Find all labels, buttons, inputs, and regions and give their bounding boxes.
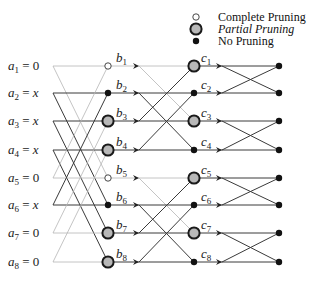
input-label-a6: a6 = x [8, 197, 39, 214]
b7-partial-node [102, 227, 113, 238]
stage-label-b2: b2 [116, 77, 127, 94]
stage-label-c7: c7 [201, 217, 212, 234]
c2-full-node [191, 90, 197, 96]
pruned-fft-butterfly-diagram: Complete PruningPartial PruningNo Prunin… [0, 0, 315, 282]
stage-label-b6: b6 [116, 189, 128, 206]
out5-full-node [276, 175, 282, 181]
stage-label-b7: b7 [116, 217, 128, 234]
legend-black-circle-icon [193, 38, 199, 44]
input-label-a4: a4 = x [8, 142, 39, 159]
stage-label-b5: b5 [116, 162, 128, 179]
c4-full-node [191, 147, 197, 153]
input-label-a2: a2 = x [8, 85, 39, 102]
stage-label-c4: c4 [201, 134, 212, 151]
b5-hollow-node [105, 175, 111, 181]
stage-label-b1: b1 [116, 50, 127, 67]
legend-gray-circle-icon [190, 23, 201, 34]
out1-full-node [276, 63, 282, 69]
out7-full-node [276, 230, 282, 236]
input-label-a3: a3 = x [8, 113, 39, 130]
b2-full-node [105, 90, 111, 96]
butterfly-wires [53, 66, 279, 262]
b3-partial-node [102, 115, 113, 126]
stage-label-c2: c2 [201, 77, 211, 94]
b8-partial-node [102, 256, 113, 267]
input-label-a8: a8 = 0 [8, 254, 39, 271]
stage-label-b3: b3 [116, 105, 128, 122]
legend-label: No Pruning [218, 34, 274, 48]
stage-label-b8: b8 [116, 246, 128, 263]
legend-hollow-circle-icon [193, 14, 199, 20]
out6-full-node [276, 202, 282, 208]
c5-partial-node [188, 172, 199, 183]
nodes [102, 60, 282, 267]
legend: Complete PruningPartial PruningNo Prunin… [190, 10, 305, 48]
out2-full-node [276, 90, 282, 96]
stage-label-c5: c5 [201, 162, 212, 179]
stage-label-c3: c3 [201, 105, 212, 122]
stage-label-b4: b4 [116, 134, 128, 151]
c8-full-node [191, 259, 197, 265]
b1-hollow-node [105, 63, 111, 69]
c3-partial-node [188, 115, 199, 126]
input-label-a5: a5 = 0 [8, 170, 39, 187]
c7-partial-node [188, 227, 199, 238]
out3-full-node [276, 118, 282, 124]
b6-full-node [105, 202, 111, 208]
stage-label-c6: c6 [201, 189, 212, 206]
c6-full-node [191, 202, 197, 208]
out8-full-node [276, 259, 282, 265]
b4-partial-node [102, 144, 113, 155]
input-label-a1: a1 = 0 [8, 58, 39, 75]
stage-label-c8: c8 [201, 246, 212, 263]
stage-label-c1: c1 [201, 50, 211, 67]
out4-full-node [276, 147, 282, 153]
c1-partial-node [188, 60, 199, 71]
input-label-a7: a7 = 0 [8, 225, 39, 242]
